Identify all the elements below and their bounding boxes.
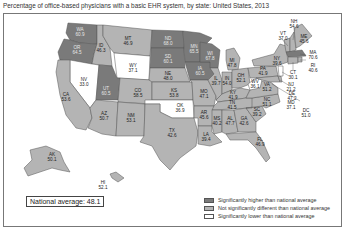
legend-label: Significantly lower than national averag… bbox=[218, 213, 315, 219]
svg-text:36.1: 36.1 bbox=[251, 84, 260, 89]
svg-text:36.9: 36.9 bbox=[176, 108, 185, 113]
svg-text:70.6: 70.6 bbox=[309, 55, 318, 60]
legend-item-lower: Significantly lower than national averag… bbox=[204, 212, 330, 220]
svg-text:52.1: 52.1 bbox=[237, 78, 246, 83]
national-average-box: National average: 48.1 bbox=[26, 196, 104, 207]
state-HI bbox=[110, 172, 124, 182]
legend: Significantly higher than national avera… bbox=[204, 196, 330, 220]
svg-text:64.5: 64.5 bbox=[73, 50, 82, 55]
svg-text:47.8: 47.8 bbox=[228, 63, 237, 68]
svg-text:48.0: 48.0 bbox=[164, 76, 173, 81]
svg-text:39.6: 39.6 bbox=[273, 61, 282, 66]
svg-text:42.6: 42.6 bbox=[168, 133, 177, 138]
svg-text:60.9: 60.9 bbox=[76, 32, 85, 37]
legend-swatch-higher bbox=[204, 198, 214, 203]
svg-text:37.1: 37.1 bbox=[129, 68, 138, 73]
state-NY bbox=[252, 44, 288, 66]
legend-swatch-not-different bbox=[204, 206, 214, 211]
svg-text:51.0: 51.0 bbox=[302, 113, 311, 118]
svg-text:39.7: 39.7 bbox=[212, 81, 221, 86]
svg-text:46.9: 46.9 bbox=[124, 41, 133, 46]
svg-text:41.9: 41.9 bbox=[259, 71, 268, 76]
svg-text:30.1: 30.1 bbox=[289, 75, 298, 80]
svg-text:53.6: 53.6 bbox=[62, 97, 71, 102]
svg-text:33.0: 33.0 bbox=[80, 82, 89, 87]
svg-text:51.2: 51.2 bbox=[263, 87, 272, 92]
state-FL bbox=[226, 132, 270, 162]
svg-text:39.4: 39.4 bbox=[202, 137, 211, 142]
svg-text:53.1: 53.1 bbox=[127, 118, 136, 123]
svg-text:53.8: 53.8 bbox=[170, 93, 179, 98]
svg-text:67.8: 67.8 bbox=[206, 56, 215, 61]
svg-text:60.5: 60.5 bbox=[102, 91, 111, 96]
svg-text:40.6: 40.6 bbox=[309, 68, 318, 73]
svg-text:54.0: 54.0 bbox=[223, 81, 232, 86]
legend-label: Significantly higher than national avera… bbox=[218, 197, 317, 203]
legend-item-not-different: Not significantly different than nationa… bbox=[204, 204, 330, 212]
svg-text:68.0: 68.0 bbox=[164, 41, 173, 46]
svg-text:42.6: 42.6 bbox=[240, 121, 249, 126]
svg-text:40.2: 40.2 bbox=[213, 121, 222, 126]
svg-text:50.1: 50.1 bbox=[48, 157, 57, 162]
state-NJ bbox=[278, 66, 283, 76]
svg-text:39.2: 39.2 bbox=[253, 112, 262, 117]
legend-item-higher: Significantly higher than national avera… bbox=[204, 196, 330, 204]
svg-text:45.6: 45.6 bbox=[200, 115, 209, 120]
svg-text:47.7: 47.7 bbox=[226, 121, 235, 126]
svg-text:60.5: 60.5 bbox=[196, 71, 205, 76]
svg-text:46.9: 46.9 bbox=[256, 142, 265, 147]
legend-label: Not significantly different than nationa… bbox=[218, 205, 330, 211]
svg-text:46.3: 46.3 bbox=[97, 48, 106, 53]
state-RI bbox=[298, 57, 302, 62]
svg-text:60.1: 60.1 bbox=[164, 59, 173, 64]
svg-text:65.5: 65.5 bbox=[190, 49, 199, 54]
svg-text:45.6: 45.6 bbox=[300, 39, 309, 44]
svg-text:52.1: 52.1 bbox=[99, 185, 108, 190]
svg-text:37.0: 37.0 bbox=[279, 36, 288, 41]
legend-swatch-lower bbox=[204, 214, 214, 219]
svg-text:51.1: 51.1 bbox=[263, 102, 272, 107]
svg-text:54.6: 54.6 bbox=[290, 24, 299, 29]
svg-text:47.1: 47.1 bbox=[200, 94, 209, 99]
svg-text:50.7: 50.7 bbox=[100, 116, 109, 121]
svg-text:41.5: 41.5 bbox=[228, 105, 237, 110]
svg-text:37.1: 37.1 bbox=[287, 105, 296, 110]
svg-text:58.5: 58.5 bbox=[134, 93, 143, 98]
